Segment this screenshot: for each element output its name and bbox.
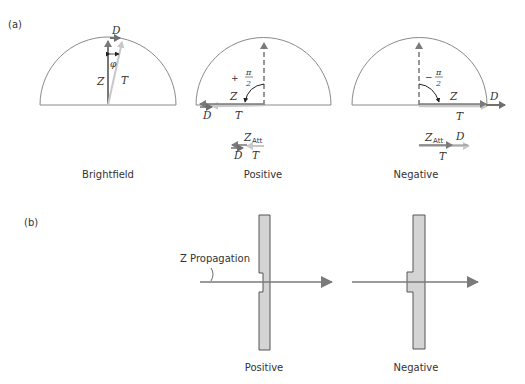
t-vector: [108, 42, 122, 105]
z-att-subscript: Att: [252, 137, 262, 145]
angle-numerator: π: [435, 68, 442, 77]
z-att-subscript: Att: [433, 137, 443, 145]
d-att-label: D: [233, 149, 243, 161]
z-propagation-label: Z Propagation: [180, 253, 250, 264]
negative-diagram: − π 2 Z D T Z Att D T Negative: [352, 38, 505, 181]
brightfield-diagram: D Z T φ Brightfield: [40, 24, 176, 180]
negative-phase-plate: Negative: [352, 215, 478, 373]
z-label: Z: [229, 90, 238, 102]
z-att-label: Z: [243, 131, 252, 143]
panel-a-label: (a): [8, 19, 22, 30]
d-label: D: [202, 109, 212, 121]
d-label: D: [489, 90, 499, 102]
figure-canvas: (a) D Z T φ Brightfield + π 2 Z D T Z At…: [0, 0, 525, 384]
d-label: D: [111, 24, 121, 36]
positive-caption: Positive: [244, 169, 283, 180]
t-att-label: T: [439, 150, 447, 162]
attenuated-vectors: Z Att D T: [419, 130, 469, 162]
angle-sign: −: [425, 72, 433, 82]
negative-plate-caption: Negative: [394, 362, 439, 373]
t-label: T: [121, 74, 129, 86]
brightfield-caption: Brightfield: [82, 169, 134, 180]
t-label: T: [235, 109, 243, 121]
panel-b-label: (b): [24, 217, 38, 228]
t-label: T: [456, 110, 464, 122]
leader-line: [211, 268, 213, 281]
z-label: Z: [449, 90, 458, 102]
positive-phase-plate: Z Propagation Positive: [180, 215, 332, 373]
t-att-label: T: [252, 149, 260, 161]
z-label: Z: [96, 75, 105, 87]
attenuated-vectors: Z Att D T: [231, 131, 264, 161]
d-att-label: D: [455, 130, 465, 142]
phi-label: φ: [110, 59, 117, 69]
angle-numerator: π: [245, 68, 252, 77]
t-vector: [212, 105, 264, 106]
angle-denominator: 2: [435, 79, 441, 88]
negative-caption: Negative: [394, 169, 439, 180]
positive-plate-caption: Positive: [245, 362, 284, 373]
z-att-label: Z: [424, 131, 433, 143]
positive-diagram: + π 2 Z D T Z Att D T Positive: [196, 38, 331, 181]
angle-denominator: 2: [245, 79, 251, 88]
angle-sign: +: [231, 73, 239, 83]
